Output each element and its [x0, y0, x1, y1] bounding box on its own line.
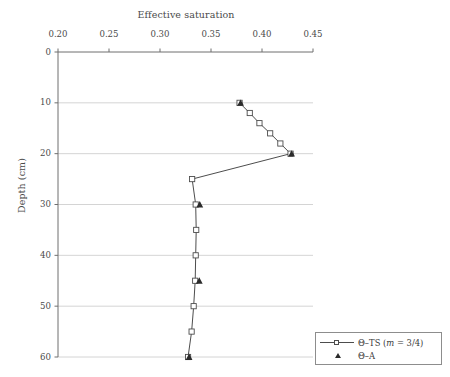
filled-triangle-icon [320, 350, 354, 362]
marker-open-square [194, 227, 199, 232]
marker-open-square [268, 131, 273, 136]
marker-open-square [189, 329, 194, 334]
marker-open-square [278, 141, 283, 146]
marker-open-square [190, 176, 195, 181]
chart-figure: Effective saturation Depth (cm) 0.200.25… [0, 0, 450, 377]
marker-open-square [191, 304, 196, 309]
series-line-theta-ts [188, 103, 291, 357]
open-square-line-icon [320, 337, 354, 349]
plot-area [0, 0, 450, 377]
marker-open-square [257, 121, 262, 126]
marker-open-square [193, 253, 198, 258]
marker-open-square [247, 110, 252, 115]
legend-item-theta-a: Θ–A [320, 349, 437, 362]
chart-legend: Θ–TS (m = 3/4) Θ–A [315, 332, 442, 365]
legend-label-theta-a: Θ–A [354, 351, 375, 361]
legend-item-theta-ts: Θ–TS (m = 3/4) [320, 336, 437, 349]
legend-label-theta-ts: Θ–TS (m = 3/4) [354, 338, 423, 348]
